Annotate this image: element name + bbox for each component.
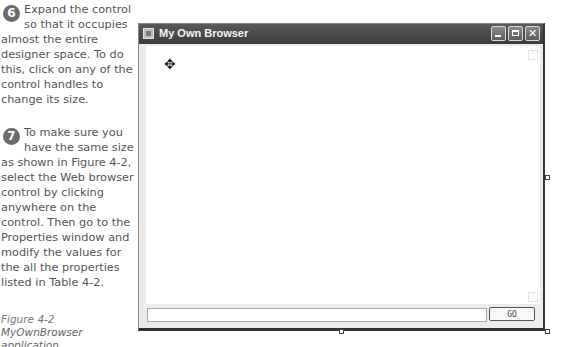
step-7: 7 To make sure you have the same size as… xyxy=(1,125,135,290)
window-title: My Own Browser xyxy=(159,27,248,39)
figure-caption: Figure 4-2 MyOwnBrowser application xyxy=(1,313,141,347)
minimize-button[interactable] xyxy=(491,26,506,41)
step-number-badge: 7 xyxy=(3,128,20,145)
figure-title: MyOwnBrowser application xyxy=(1,326,141,347)
step-number-badge: 6 xyxy=(3,5,20,22)
address-input[interactable] xyxy=(147,308,487,322)
step-6: 6 Expand the control so that it occupies… xyxy=(1,2,135,107)
scroll-down-icon[interactable]: ˅ xyxy=(528,292,538,302)
resize-handle-bottom-right[interactable] xyxy=(545,329,550,334)
figure-label: Figure 4-2 xyxy=(1,313,141,326)
form-window[interactable]: My Own Browser ✕ ✥ ˄ ˅ GO xyxy=(138,23,545,331)
step-text: Expand the control so that it occupies a… xyxy=(1,3,133,106)
maximize-button[interactable] xyxy=(508,26,523,41)
title-bar[interactable]: My Own Browser ✕ xyxy=(139,24,543,44)
move-icon[interactable]: ✥ xyxy=(164,56,176,72)
app-icon xyxy=(143,28,154,39)
resize-handle-bottom[interactable] xyxy=(339,329,344,334)
resize-handle-right[interactable] xyxy=(545,175,550,180)
close-button[interactable]: ✕ xyxy=(525,26,540,41)
go-button[interactable]: GO xyxy=(489,307,535,321)
step-text: To make sure you have the same size as s… xyxy=(1,126,134,289)
scroll-up-icon[interactable]: ˄ xyxy=(528,50,538,60)
web-browser-control[interactable]: ✥ ˄ ˅ xyxy=(146,46,541,304)
